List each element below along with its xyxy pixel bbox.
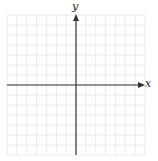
coordinate-plane: y x [0,0,158,161]
x-axis-arrow-icon [138,82,145,88]
x-axis-label: x [145,78,151,89]
coordinate-grid [0,0,158,161]
y-axis-label: y [72,1,78,12]
